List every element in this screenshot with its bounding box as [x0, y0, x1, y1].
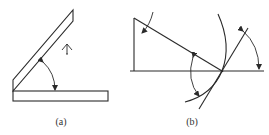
up-arrow-icon: [62, 44, 72, 55]
base-bar: [13, 91, 108, 101]
panel-b-label: (b): [186, 116, 198, 127]
angle-arc-right: [243, 31, 259, 69]
circular-arc: [185, 14, 226, 102]
tangent-line: [199, 28, 248, 109]
diagram-canvas: [0, 0, 269, 135]
diagram-figure: (a) (b): [0, 0, 269, 135]
panel-b: [130, 12, 264, 109]
angle-arc-left: [191, 57, 199, 96]
small-curved-arrow: [142, 12, 153, 33]
contact-point: [221, 70, 224, 73]
slanted-bar: [13, 10, 73, 91]
angle-arc-a: [43, 62, 55, 90]
panel-a: [13, 10, 108, 101]
panel-a-label: (a): [55, 116, 66, 127]
